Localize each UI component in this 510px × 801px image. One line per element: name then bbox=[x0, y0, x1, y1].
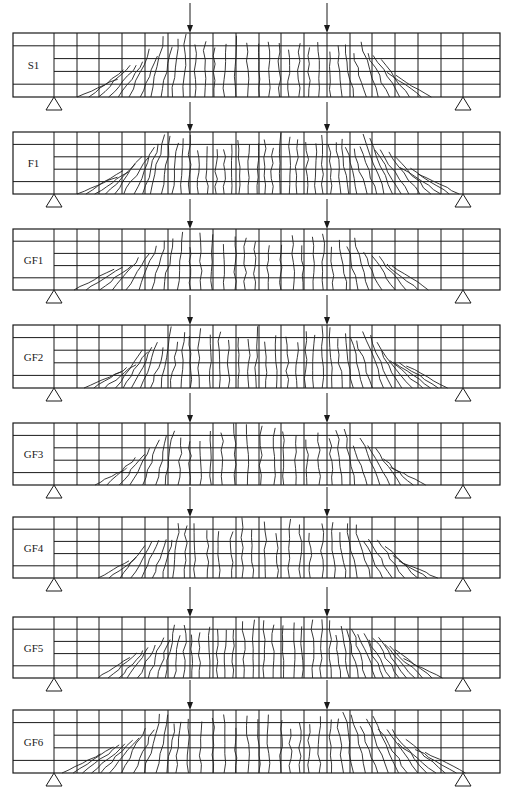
load-arrow-icon bbox=[187, 199, 193, 229]
support-triangle-icon bbox=[455, 678, 471, 691]
beam-label: GF2 bbox=[24, 351, 44, 363]
beam-outline bbox=[13, 325, 500, 388]
support-triangle-icon bbox=[46, 97, 62, 110]
support-triangle-icon bbox=[46, 773, 62, 786]
beam-gf4: GF4 bbox=[13, 487, 500, 591]
support-triangle-icon bbox=[455, 388, 471, 401]
beam-outline bbox=[13, 617, 500, 678]
beam-f1: F1 bbox=[13, 102, 500, 207]
beam-label: GF3 bbox=[24, 448, 44, 460]
load-arrow-icon bbox=[187, 3, 193, 33]
load-arrow-icon bbox=[187, 102, 193, 132]
load-arrow-icon bbox=[187, 587, 193, 617]
load-arrow-icon bbox=[187, 393, 193, 423]
beam-outline bbox=[13, 229, 500, 290]
beam-outline bbox=[13, 132, 500, 194]
support-triangle-icon bbox=[46, 194, 62, 207]
beam-label: GF1 bbox=[24, 254, 44, 266]
beam-gf6: GF6 bbox=[13, 680, 500, 786]
support-triangle-icon bbox=[46, 290, 62, 303]
beam-label: F1 bbox=[28, 157, 40, 169]
beam-gf5: GF5 bbox=[13, 587, 500, 691]
beam-label: GF6 bbox=[24, 736, 44, 748]
support-triangle-icon bbox=[46, 578, 62, 591]
load-arrow-icon bbox=[324, 393, 330, 423]
support-triangle-icon bbox=[455, 290, 471, 303]
load-arrow-icon bbox=[324, 487, 330, 517]
beam-outline bbox=[13, 710, 500, 773]
support-triangle-icon bbox=[46, 485, 62, 498]
support-triangle-icon bbox=[455, 194, 471, 207]
load-arrow-icon bbox=[187, 295, 193, 325]
beam-s1: S1 bbox=[13, 3, 500, 110]
load-arrow-icon bbox=[324, 587, 330, 617]
beam-outline bbox=[13, 33, 500, 97]
beam-gf3: GF3 bbox=[13, 393, 500, 498]
support-triangle-icon bbox=[455, 578, 471, 591]
load-arrow-icon bbox=[324, 680, 330, 710]
load-arrow-icon bbox=[324, 199, 330, 229]
beam-label: GF4 bbox=[24, 542, 44, 554]
load-arrow-icon bbox=[324, 3, 330, 33]
support-triangle-icon bbox=[455, 485, 471, 498]
support-triangle-icon bbox=[46, 388, 62, 401]
beam-gf2: GF2 bbox=[13, 295, 500, 401]
load-arrow-icon bbox=[324, 102, 330, 132]
support-triangle-icon bbox=[46, 678, 62, 691]
load-arrow-icon bbox=[324, 295, 330, 325]
beam-label: S1 bbox=[28, 59, 40, 71]
load-arrow-icon bbox=[187, 487, 193, 517]
load-arrow-icon bbox=[187, 680, 193, 710]
crack-pattern-figure: S1F1GF1GF2GF3GF4GF5GF6 bbox=[0, 0, 510, 801]
beam-outline bbox=[13, 517, 500, 578]
support-triangle-icon bbox=[455, 97, 471, 110]
beam-label: GF5 bbox=[24, 642, 44, 654]
beam-gf1: GF1 bbox=[13, 199, 500, 303]
beam-outline bbox=[13, 423, 500, 485]
support-triangle-icon bbox=[455, 773, 471, 786]
